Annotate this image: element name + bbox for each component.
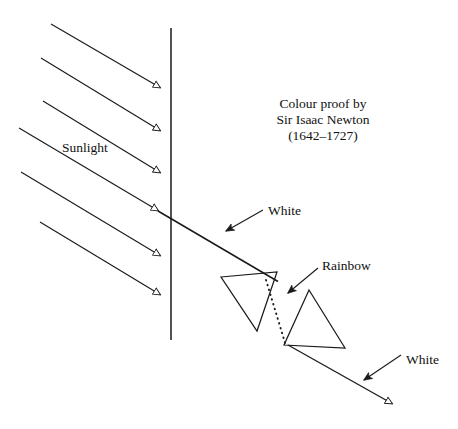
newton-colour-proof-figure: Colour proof by Sir Isaac Newton (1642–1…	[0, 0, 458, 429]
rainbow-label: Rainbow	[322, 258, 371, 274]
white-bottom-annotation-arrow	[364, 355, 401, 380]
ray-diagram-canvas	[0, 0, 458, 429]
caption-line-2: Sir Isaac Newton	[251, 112, 395, 128]
inverted-prism	[221, 272, 277, 331]
rainbow-annotation-arrow	[288, 268, 318, 293]
sunlight-ray-5	[21, 172, 160, 256]
sunlight-ray-2	[41, 58, 160, 131]
white-beam-outgoing	[288, 345, 392, 404]
upright-prism	[284, 290, 345, 348]
white-beam-incoming	[158, 211, 278, 282]
sunlight-ray-6	[40, 222, 160, 295]
caption-line-3: (1642–1727)	[251, 128, 395, 144]
sunlight-ray-group	[19, 24, 160, 295]
white-top-annotation-arrow	[226, 210, 263, 231]
white-label-top: White	[268, 203, 301, 219]
newton-caption: Colour proof by Sir Isaac Newton (1642–1…	[251, 96, 395, 144]
white-label-bottom: White	[406, 352, 439, 368]
sunlight-label: Sunlight	[62, 140, 108, 156]
caption-line-1: Colour proof by	[251, 96, 395, 112]
sunlight-ray-3	[43, 101, 160, 173]
rainbow-dispersed-ray	[266, 280, 286, 346]
sunlight-ray-1	[51, 24, 160, 88]
